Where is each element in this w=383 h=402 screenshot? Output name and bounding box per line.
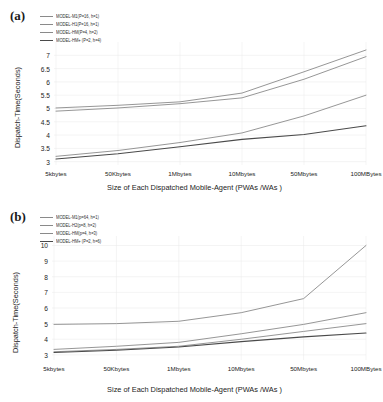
x-tick-label: 1Mbytes — [167, 365, 190, 372]
x-tick-label: 1Mbytes — [168, 170, 191, 177]
x-tick-label: 5kbytes — [43, 365, 64, 372]
x-tick-label: 5kbytes — [45, 170, 66, 177]
x-tick-label: 50Mbytes — [290, 365, 317, 372]
x-tick-label: 10Mbytes — [229, 170, 256, 177]
chart-panel-a: (a) MODEL-M1(P=16, h=1)MODEL-H1(P=16, h=… — [0, 0, 377, 201]
x-tick-label: 10Mbytes — [228, 365, 255, 372]
plot-area-a: Dispatch-Time(Seconds) 33.544.555.566.57… — [0, 0, 377, 201]
series-line — [56, 57, 366, 112]
series-line — [56, 50, 366, 108]
series-line — [54, 245, 366, 324]
x-tick-label: 50Kbytes — [103, 365, 129, 372]
x-axis-label-a: Size of Each Dispatched Mobile-Agent (PW… — [6, 183, 383, 192]
x-tick-label: 100MBytes — [351, 365, 382, 372]
x-tick-label: 50Kbytes — [105, 170, 131, 177]
plot-area-b: Dispatch-Time(Seconds) 345678910 5kbytes… — [0, 201, 377, 402]
chart-panel-b: (b) MODEL-M1(p=64, h=1)MODEL-H2(p=8, h=2… — [0, 201, 377, 402]
series-line — [56, 126, 366, 159]
x-tick-label: 100MBytes — [351, 170, 382, 177]
series-line — [56, 95, 366, 156]
x-axis-label-b: Size of Each Dispatched Mobile-Agent (PW… — [6, 385, 383, 394]
x-tick-label: 50Mbytes — [291, 170, 318, 177]
